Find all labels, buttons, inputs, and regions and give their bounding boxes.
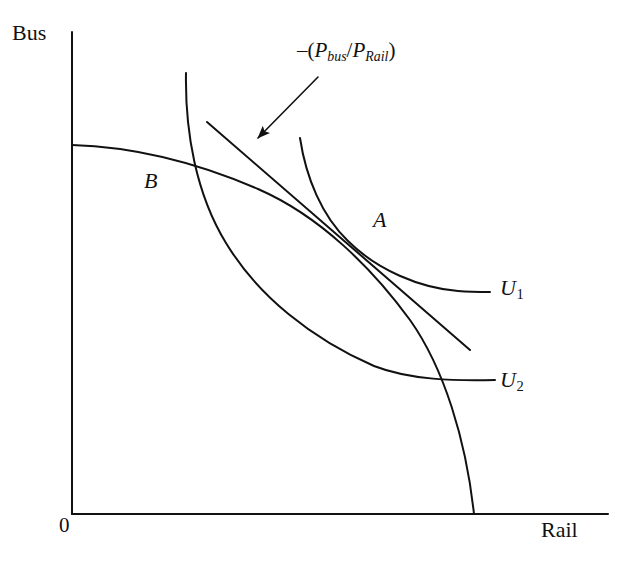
curve-label-u2-base: U: [500, 367, 516, 392]
price-suffix: ): [388, 38, 395, 62]
origin-label: 0: [59, 515, 70, 536]
curve-label-u1-subscript: 1: [516, 286, 524, 302]
relative-price-annotation: –(Pbus/PRail): [297, 40, 395, 64]
price-numerator-subscript: bus: [327, 49, 346, 64]
economics-diagram: Bus Rail 0 A B U1 U2 –(Pbus/PRail): [0, 0, 633, 566]
indifference-curve-u2: [186, 73, 495, 380]
price-denominator: P: [352, 38, 365, 62]
y-axis-label: Bus: [12, 22, 46, 44]
point-label-b: B: [144, 170, 157, 192]
price-prefix: –(: [297, 38, 315, 62]
curve-label-u2: U2: [500, 369, 524, 394]
price-denominator-subscript: Rail: [365, 49, 388, 64]
relative-price-line: [207, 122, 470, 350]
indifference-curve-u1: [300, 138, 490, 292]
curve-label-u1: U1: [500, 277, 524, 302]
price-numerator: P: [315, 38, 328, 62]
point-label-a: A: [373, 209, 386, 231]
ppf-curve: [72, 145, 474, 514]
annotation-arrow: [258, 77, 318, 138]
curve-label-u2-subscript: 2: [516, 378, 524, 394]
x-axis-label: Rail: [541, 519, 578, 541]
diagram-canvas: [0, 0, 633, 566]
curve-label-u1-base: U: [500, 275, 516, 300]
